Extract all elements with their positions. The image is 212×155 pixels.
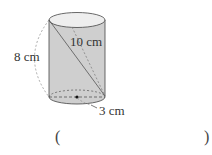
answer-open-paren: (: [55, 128, 60, 146]
cylinder-diagram: 8 cm 10 cm 3 cm ( ): [0, 0, 212, 155]
height-label: 8 cm: [14, 49, 40, 64]
diagonal-label: 10 cm: [70, 34, 102, 49]
cylinder-top: [49, 13, 105, 28]
radius-label: 3 cm: [99, 103, 125, 118]
radius-leader: [91, 105, 97, 108]
answer-close-paren: ): [204, 128, 209, 146]
cylinder-body: [49, 20, 105, 104]
